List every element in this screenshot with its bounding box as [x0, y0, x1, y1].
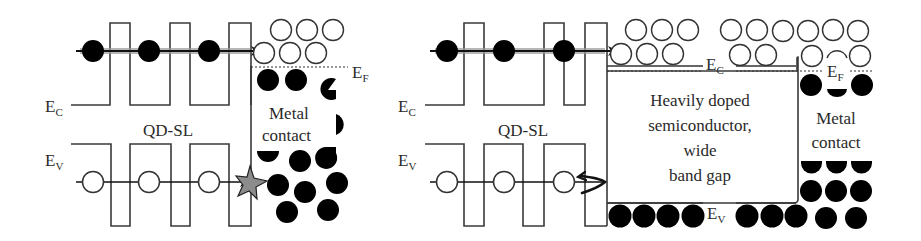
hole [139, 172, 160, 193]
right-empty-states [611, 20, 871, 67]
left-valence-band [71, 66, 251, 226]
hole [437, 172, 458, 193]
left-qd-sl-label: QD-SL [143, 121, 193, 140]
right-panel: EC EV QD-SL EC EV EF Heavily doped semic… [398, 20, 873, 230]
right-metal-label: Metal [816, 109, 856, 128]
left-panel: EC EV EF QD-SL Metal contact [45, 20, 369, 227]
right-ec-label: EC [398, 97, 416, 118]
left-metal-filled-states [257, 69, 348, 223]
hole [83, 172, 104, 193]
left-ef-label: EF [352, 63, 369, 84]
hole [554, 172, 575, 193]
electron [82, 40, 104, 62]
left-ev-label: EV [45, 151, 63, 172]
left-ec-label: EC [45, 97, 63, 118]
semiconductor-label-line2: semiconductor, [648, 116, 752, 135]
electron [493, 40, 515, 62]
electron [138, 40, 160, 62]
left-metal-label: Metal [269, 104, 309, 123]
star-icon [236, 166, 267, 199]
electron [198, 40, 220, 62]
right-ev-label: EV [398, 151, 416, 172]
semiconductor-ev-label: EV [707, 204, 725, 225]
electron [553, 40, 575, 62]
right-valence-filled-states [609, 205, 868, 230]
left-metal-empty-states [254, 20, 344, 64]
semiconductor-ec-label: EC [706, 55, 724, 76]
hole [494, 172, 515, 193]
band-diagram-figure: EC EV EF QD-SL Metal contact [0, 0, 921, 241]
left-conduction-band [71, 23, 251, 105]
semiconductor-label-line4: band gap [669, 166, 731, 185]
semiconductor-label-line3: wide [683, 141, 716, 160]
semiconductor-label-line1: Heavily doped [650, 91, 750, 110]
right-ef-label: EF [827, 62, 844, 83]
hole [199, 172, 220, 193]
right-contact-label: contact [811, 133, 860, 152]
electron [436, 40, 458, 62]
left-contact-label: contact [262, 126, 311, 145]
right-qd-sl-label: QD-SL [498, 121, 548, 140]
